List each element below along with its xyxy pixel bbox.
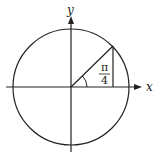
x-axis-arrow-icon bbox=[134, 84, 142, 90]
y-axis-label: y bbox=[66, 3, 74, 17]
x-axis-label: x bbox=[146, 80, 153, 94]
angle-arc bbox=[83, 76, 88, 87]
unit-circle-diagram: x y π 4 bbox=[0, 0, 153, 155]
y-axis-arrow-icon bbox=[68, 16, 74, 24]
angle-denominator: 4 bbox=[101, 74, 108, 87]
angle-numerator: π bbox=[101, 61, 108, 74]
